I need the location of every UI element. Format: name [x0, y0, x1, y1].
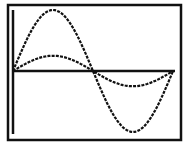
calculator-graph-screen: [0, 0, 184, 161]
